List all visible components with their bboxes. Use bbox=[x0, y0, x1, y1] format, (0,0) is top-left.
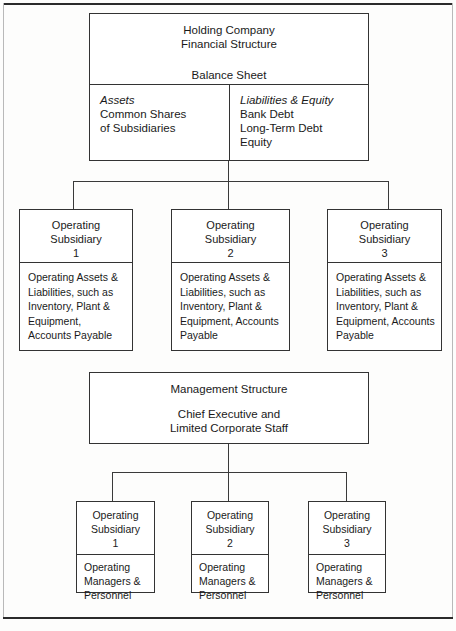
financial-subsidiary-1-line-2: Subsidiary bbox=[20, 232, 132, 246]
page-left-border bbox=[3, 3, 4, 619]
management-subtitle-line-1: Chief Executive and bbox=[90, 407, 368, 421]
page-top-rule bbox=[3, 3, 453, 5]
financial-subsidiary-1-number: 1 bbox=[20, 246, 132, 260]
holding-company-box: Holding Company Financial Structure Bala… bbox=[89, 13, 369, 161]
financial-subsidiary-1-divider bbox=[20, 262, 132, 263]
management-subsidiary-box-1: Operating Subsidiary 1 Operating Manager… bbox=[76, 501, 155, 593]
management-subsidiary-3-line-2: Subsidiary bbox=[309, 522, 385, 536]
assets-heading: Assets bbox=[100, 93, 225, 107]
management-subsidiary-3-number: 3 bbox=[309, 536, 385, 550]
management-subsidiary-3-line-1: Operating bbox=[309, 508, 385, 522]
management-subsidiary-2-number: 2 bbox=[192, 536, 268, 550]
org-chart-page: Holding Company Financial Structure Bala… bbox=[0, 0, 456, 631]
holding-title-line-1: Holding Company bbox=[90, 23, 368, 37]
connector-holding-stem bbox=[228, 161, 229, 182]
management-structure-title: Management Structure bbox=[90, 382, 368, 397]
connector-financial-drop-3 bbox=[388, 181, 389, 209]
financial-subsidiary-3-divider bbox=[328, 262, 441, 263]
management-subsidiary-2-body: Operating Managers & Personnel bbox=[199, 560, 264, 602]
management-structure-subtitle: Chief Executive and Limited Corporate St… bbox=[90, 407, 368, 435]
financial-subsidiary-3-heading: Operating Subsidiary 3 bbox=[328, 218, 441, 260]
management-subsidiary-1-heading: Operating Subsidiary 1 bbox=[77, 508, 154, 550]
financial-subsidiary-3-line-2: Subsidiary bbox=[328, 232, 441, 246]
page-bottom-rule bbox=[3, 617, 453, 619]
management-subsidiary-2-line-1: Operating bbox=[192, 508, 268, 522]
management-structure-box: Management Structure Chief Executive and… bbox=[89, 372, 369, 444]
financial-subsidiary-2-line-2: Subsidiary bbox=[172, 232, 289, 246]
management-subsidiary-2-line-2: Subsidiary bbox=[192, 522, 268, 536]
connector-financial-bus bbox=[73, 181, 388, 182]
management-subsidiary-1-line-2: Subsidiary bbox=[77, 522, 154, 536]
management-subsidiary-box-3: Operating Subsidiary 3 Operating Manager… bbox=[308, 501, 386, 593]
financial-subsidiary-box-1: Operating Subsidiary 1 Operating Assets … bbox=[19, 209, 133, 351]
management-subsidiary-2-heading: Operating Subsidiary 2 bbox=[192, 508, 268, 550]
management-subsidiary-1-divider bbox=[77, 554, 154, 555]
financial-subsidiary-3-body: Operating Assets & Liabilities, such as … bbox=[336, 270, 435, 343]
connector-management-bus bbox=[112, 472, 347, 473]
balance-sheet-label: Balance Sheet bbox=[90, 68, 368, 83]
management-subsidiary-3-divider bbox=[309, 554, 385, 555]
connector-management-stem bbox=[228, 444, 229, 473]
assets-line-2: of Subsidiaries bbox=[100, 121, 225, 135]
liabilities-heading: Liabilities & Equity bbox=[240, 93, 365, 107]
management-subsidiary-3-heading: Operating Subsidiary 3 bbox=[309, 508, 385, 550]
liabilities-line-2: Long-Term Debt bbox=[240, 121, 365, 135]
connector-management-drop-1 bbox=[112, 472, 113, 501]
financial-subsidiary-3-number: 3 bbox=[328, 246, 441, 260]
financial-subsidiary-1-heading: Operating Subsidiary 1 bbox=[20, 218, 132, 260]
connector-management-drop-3 bbox=[346, 472, 347, 501]
management-subsidiary-box-2: Operating Subsidiary 2 Operating Manager… bbox=[191, 501, 269, 593]
liabilities-equity-column: Liabilities & Equity Bank Debt Long-Term… bbox=[240, 93, 365, 149]
financial-subsidiary-box-2: Operating Subsidiary 2 Operating Assets … bbox=[171, 209, 290, 351]
holding-title-line-2: Financial Structure bbox=[90, 37, 368, 51]
financial-subsidiary-2-line-1: Operating bbox=[172, 218, 289, 232]
holding-company-title: Holding Company Financial Structure bbox=[90, 23, 368, 51]
financial-subsidiary-2-body: Operating Assets & Liabilities, such as … bbox=[180, 270, 283, 343]
financial-subsidiary-1-body: Operating Assets & Liabilities, such as … bbox=[28, 270, 126, 343]
balance-sheet-column-divider bbox=[229, 85, 230, 160]
management-subsidiary-2-divider bbox=[192, 554, 268, 555]
financial-subsidiary-2-heading: Operating Subsidiary 2 bbox=[172, 218, 289, 260]
management-subtitle-line-2: Limited Corporate Staff bbox=[90, 421, 368, 435]
liabilities-line-1: Bank Debt bbox=[240, 107, 365, 121]
management-subsidiary-1-body: Operating Managers & Personnel bbox=[84, 560, 150, 602]
management-subsidiary-1-line-1: Operating bbox=[77, 508, 154, 522]
connector-management-drop-2 bbox=[228, 472, 229, 501]
connector-financial-drop-2 bbox=[228, 181, 229, 209]
assets-column: Assets Common Shares of Subsidiaries bbox=[100, 93, 225, 135]
management-subsidiary-1-number: 1 bbox=[77, 536, 154, 550]
financial-subsidiary-box-3: Operating Subsidiary 3 Operating Assets … bbox=[327, 209, 442, 351]
financial-subsidiary-1-line-1: Operating bbox=[20, 218, 132, 232]
financial-subsidiary-2-number: 2 bbox=[172, 246, 289, 260]
management-subsidiary-3-body: Operating Managers & Personnel bbox=[316, 560, 381, 602]
liabilities-line-3: Equity bbox=[240, 135, 365, 149]
connector-financial-drop-1 bbox=[73, 181, 74, 209]
assets-line-1: Common Shares bbox=[100, 107, 225, 121]
financial-subsidiary-3-line-1: Operating bbox=[328, 218, 441, 232]
financial-subsidiary-2-divider bbox=[172, 262, 289, 263]
page-right-border bbox=[452, 3, 453, 619]
